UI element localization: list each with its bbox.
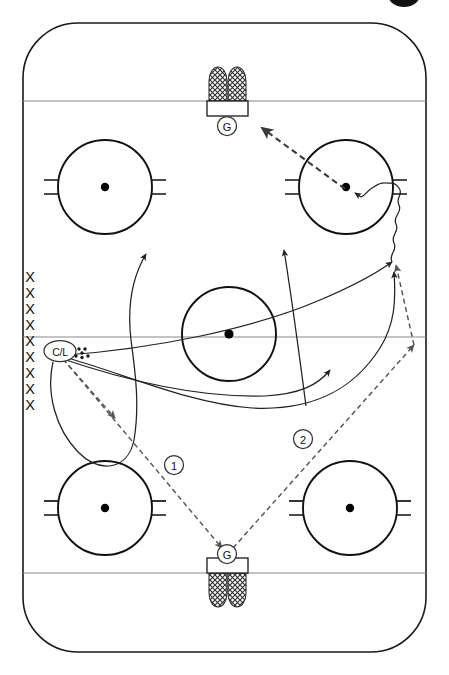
- goalie-top-label: G: [223, 121, 232, 133]
- player-x-3[interactable]: X: [25, 301, 35, 317]
- coach-line-label: C/L: [52, 346, 68, 358]
- player-x-7[interactable]: X: [25, 365, 35, 381]
- player-x-6[interactable]: X: [25, 349, 35, 365]
- rink-canvas: G G C/L 1 2: [0, 0, 449, 675]
- player-x-1[interactable]: X: [25, 269, 35, 285]
- coach-line-token[interactable]: C/L: [44, 341, 76, 362]
- goalie-bottom-token[interactable]: G: [218, 545, 237, 564]
- player-x-5[interactable]: X: [25, 333, 35, 349]
- player-x-4[interactable]: X: [25, 317, 35, 333]
- player-x-9[interactable]: X: [25, 397, 35, 413]
- step-1-label: 1: [171, 460, 177, 472]
- goalie-bottom-label: G: [223, 549, 232, 561]
- step-2-label: 2: [300, 434, 306, 446]
- hockey-drill-diagram: G G C/L 1 2: [0, 0, 449, 675]
- page-corner-blob: [389, 0, 419, 7]
- player-queue-left: XXXXXXXXX: [25, 269, 35, 413]
- goalie-top-token[interactable]: G: [218, 117, 237, 136]
- step-marker-1[interactable]: 1: [165, 456, 184, 475]
- player-x-2[interactable]: X: [25, 285, 35, 301]
- player-x-8[interactable]: X: [25, 381, 35, 397]
- step-marker-2[interactable]: 2: [294, 430, 313, 449]
